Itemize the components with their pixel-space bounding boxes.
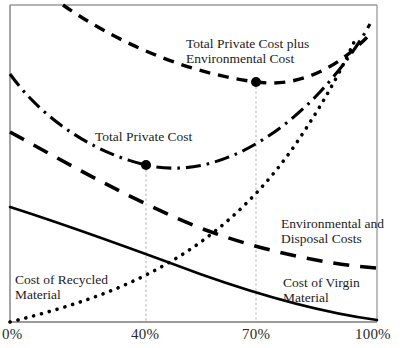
label-environmental-and-disposal-costs: Environmental and Disposal Costs <box>281 216 384 246</box>
label-line-1: Total Private Cost <box>95 129 192 144</box>
label-cost-of-virgin-material: Cost of Virgin Material <box>283 275 360 305</box>
label-line-2: Environmental Cost <box>186 51 309 66</box>
label-line-2: Material <box>15 287 108 302</box>
label-line-2: Disposal Costs <box>281 231 384 246</box>
marker-minimum-total-private-cost <box>141 160 151 170</box>
label-line-2: Material <box>283 290 360 305</box>
marker-minimum-total-plus-environmental <box>251 77 261 87</box>
label-total-private-cost-plus-environmental-cost: Total Private Cost plus Environmental Co… <box>186 36 309 66</box>
label-line-1: Cost of Virgin <box>283 275 360 290</box>
label-cost-of-recycled-material: Cost of Recycled Material <box>15 272 108 302</box>
chart-container: Total Private Cost plus Environmental Co… <box>0 0 404 348</box>
x-axis-tick-70: 70% <box>242 326 270 343</box>
label-line-1: Environmental and <box>281 216 384 231</box>
label-line-1: Cost of Recycled <box>15 272 108 287</box>
series-environmental-and-disposal-costs <box>10 132 377 268</box>
x-axis-tick-0: 0% <box>2 326 22 343</box>
x-axis-tick-40: 40% <box>131 326 159 343</box>
label-total-private-cost: Total Private Cost <box>95 129 192 144</box>
label-line-1: Total Private Cost plus <box>186 36 309 51</box>
x-axis-tick-100: 100% <box>355 326 391 343</box>
